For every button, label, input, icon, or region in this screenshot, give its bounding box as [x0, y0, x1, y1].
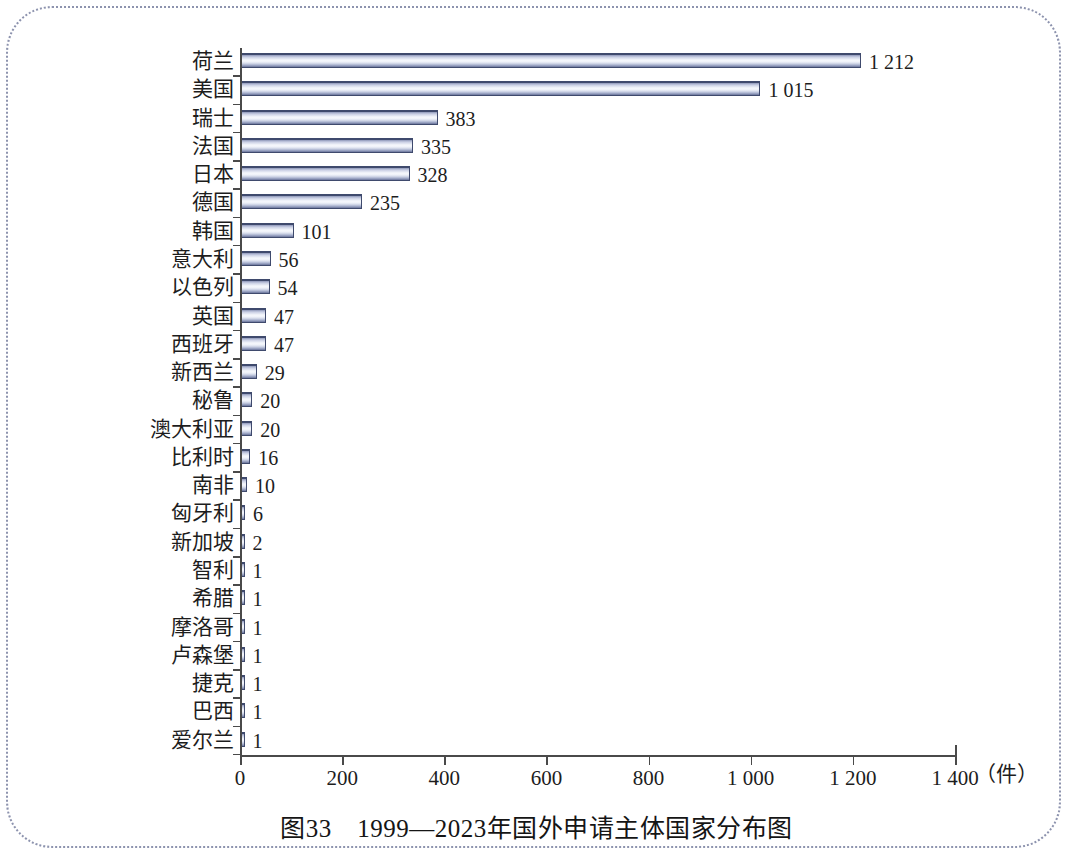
bar-value-label: 235 [370, 190, 400, 216]
bar-value-label: 29 [265, 360, 285, 386]
bar-row: 瑞士383 [240, 105, 955, 132]
bar-category-label: 摩洛哥 [64, 614, 234, 641]
bar-value-label: 20 [260, 417, 280, 443]
bar [242, 562, 245, 577]
bar-value-label: 1 [253, 615, 263, 641]
x-axis-tick-label: 200 [326, 764, 358, 792]
y-axis-tick [233, 584, 240, 586]
bar-row: 爱尔兰1 [240, 727, 955, 754]
bar [242, 505, 245, 520]
bar-category-label: 卢森堡 [64, 642, 234, 669]
y-axis-tick [233, 273, 240, 275]
bar-category-label: 南非 [64, 472, 234, 499]
bar [242, 223, 294, 238]
bar-row: 以色列54 [240, 274, 955, 301]
bar-value-label: 1 [253, 643, 263, 669]
bar-row: 荷兰1 212 [240, 48, 955, 75]
y-axis-tick [233, 104, 240, 106]
bar-category-label: 法国 [64, 133, 234, 160]
bar-category-label: 捷克 [64, 670, 234, 697]
bar-category-label: 巴西 [64, 698, 234, 725]
bar [242, 449, 250, 464]
bar [242, 675, 245, 690]
bar-value-label: 1 212 [869, 49, 914, 75]
x-axis-tick-label: 0 [235, 764, 246, 792]
bar-row: 新西兰29 [240, 359, 955, 386]
bar-category-label: 新加坡 [64, 529, 234, 556]
y-axis-tick [233, 330, 240, 332]
y-axis-tick [233, 499, 240, 501]
bar-row: 法国335 [240, 133, 955, 160]
x-axis-tick-label: 600 [531, 764, 563, 792]
bar [242, 421, 252, 436]
y-axis-tick [233, 443, 240, 445]
bar-value-label: 1 [253, 671, 263, 697]
bar [242, 110, 438, 125]
bar-row: 匈牙利6 [240, 500, 955, 527]
y-axis-tick [233, 754, 240, 756]
y-axis-tick [233, 160, 240, 162]
bar [242, 308, 266, 323]
x-axis-tick-label: 1 200 [829, 764, 876, 792]
bar-category-label: 瑞士 [64, 105, 234, 132]
bar-category-label: 比利时 [64, 444, 234, 471]
bar-category-label: 英国 [64, 303, 234, 330]
bar-row: 新加坡2 [240, 529, 955, 556]
bar-row: 秘鲁20 [240, 387, 955, 414]
bar-value-label: 16 [258, 445, 278, 471]
bar-category-label: 日本 [64, 161, 234, 188]
bar [242, 590, 245, 605]
bar-value-label: 1 [253, 699, 263, 725]
bar [242, 732, 245, 747]
bar-category-label: 秘鲁 [64, 387, 234, 414]
x-axis-tick-label: 400 [429, 764, 461, 792]
bar-chart: 02004006008001 0001 2001 400 （件） 荷兰1 212… [0, 0, 1073, 860]
bar-row: 美国1 015 [240, 76, 955, 103]
bar-value-label: 47 [274, 304, 294, 330]
bar-row: 韩国101 [240, 218, 955, 245]
bar-row: 德国235 [240, 189, 955, 216]
bar-category-label: 匈牙利 [64, 500, 234, 527]
x-axis-tick-label: 1 000 [727, 764, 774, 792]
bar [242, 279, 270, 294]
y-axis-tick [233, 132, 240, 134]
bar [242, 364, 257, 379]
bar-row: 西班牙47 [240, 331, 955, 358]
y-axis-tick [233, 641, 240, 643]
bar-category-label: 美国 [64, 76, 234, 103]
bar-value-label: 20 [260, 388, 280, 414]
bar [242, 619, 245, 634]
bar-row: 日本328 [240, 161, 955, 188]
bar-row: 摩洛哥1 [240, 614, 955, 641]
bar [242, 138, 413, 153]
bar-category-label: 智利 [64, 557, 234, 584]
bar-value-label: 47 [274, 332, 294, 358]
bar-value-label: 1 [253, 558, 263, 584]
bar-value-label: 6 [253, 501, 263, 527]
bar [242, 166, 410, 181]
y-axis-tick [233, 75, 240, 77]
bar [242, 336, 266, 351]
bar [242, 392, 252, 407]
y-axis-tick [233, 556, 240, 558]
bar-category-label: 澳大利亚 [64, 416, 234, 443]
bar [242, 534, 245, 549]
x-axis-tick-label: 800 [633, 764, 665, 792]
y-axis-tick [233, 613, 240, 615]
bar-value-label: 56 [279, 247, 299, 273]
y-axis-tick [233, 669, 240, 671]
bar [242, 703, 245, 718]
bar-value-label: 1 015 [768, 77, 813, 103]
y-axis-tick [233, 188, 240, 190]
bar-value-label: 328 [418, 162, 448, 188]
bar-value-label: 383 [446, 106, 476, 132]
bar-category-label: 德国 [64, 189, 234, 216]
y-axis-tick [233, 697, 240, 699]
x-axis-line [240, 755, 957, 757]
bar-value-label: 54 [278, 275, 298, 301]
x-axis-unit-label: （件） [975, 760, 1038, 788]
bar-row: 比利时16 [240, 444, 955, 471]
bar-row: 智利1 [240, 557, 955, 584]
bar-value-label: 335 [421, 134, 451, 160]
bar-row: 英国47 [240, 303, 955, 330]
